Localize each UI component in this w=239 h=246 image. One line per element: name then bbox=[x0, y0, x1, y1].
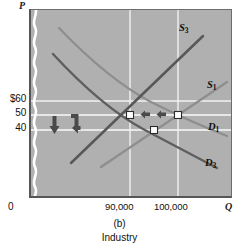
curve-label-s3-text: S bbox=[179, 22, 185, 33]
arrow-left-icon bbox=[157, 110, 167, 118]
y-axis-letter: P bbox=[19, 1, 25, 11]
x-tick-label-origin: 0 bbox=[8, 202, 13, 212]
equilibrium-point-100000-50 bbox=[175, 112, 182, 119]
curve-label-d1: D1 bbox=[208, 122, 219, 133]
figure-supply-demand-industry: P Q $60 50 40 0 90,000 100,000 bbox=[0, 0, 239, 246]
x-tick-label-100000: 100,000 bbox=[154, 202, 188, 212]
figure-caption-title: Industry bbox=[0, 233, 239, 243]
curve-label-s1-text: S bbox=[207, 79, 213, 90]
equilibrium-point-90000-50 bbox=[127, 112, 134, 119]
curve-label-d3-sub: 3 bbox=[213, 161, 217, 170]
y-tick-label-60: $60 bbox=[0, 94, 26, 104]
plot-canvas bbox=[31, 10, 231, 196]
curve-demand-d1 bbox=[59, 28, 227, 136]
curve-label-s3-sub: 3 bbox=[185, 26, 189, 35]
curve-label-d1-text: D bbox=[208, 121, 216, 132]
curve-label-s3: S3 bbox=[179, 23, 189, 34]
y-tick-label-40: 40 bbox=[0, 123, 26, 133]
curve-label-d3-text: D bbox=[205, 157, 213, 168]
x-tick-label-90000: 90,000 bbox=[105, 202, 133, 212]
curve-demand-d3 bbox=[53, 54, 217, 168]
figure-caption-label: (b) bbox=[0, 219, 239, 229]
curve-label-d1-sub: 1 bbox=[216, 125, 220, 134]
plot-area bbox=[29, 9, 232, 198]
arrow-left-icon bbox=[141, 110, 151, 118]
equilibrium-point-95000-40 bbox=[151, 127, 158, 134]
y-tick-label-50: 50 bbox=[0, 108, 26, 118]
curve-label-d3: D3 bbox=[205, 158, 216, 169]
axis-break-wave bbox=[34, 10, 36, 196]
arrow-down-icon bbox=[50, 116, 60, 134]
curve-label-s1: S1 bbox=[207, 80, 217, 91]
arrow-curved-icon bbox=[71, 116, 81, 134]
x-axis-letter: Q bbox=[225, 202, 232, 212]
curve-label-s1-sub: 1 bbox=[213, 83, 217, 92]
